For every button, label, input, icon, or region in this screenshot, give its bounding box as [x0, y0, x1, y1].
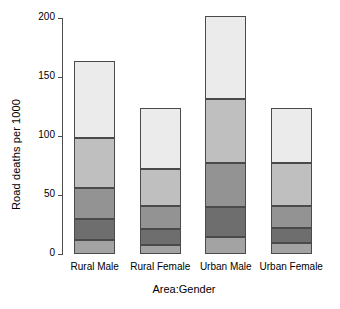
y-tick-label: 50 [44, 188, 55, 199]
stacked-bar[interactable] [140, 18, 181, 254]
bar-segment[interactable] [271, 163, 312, 205]
bar-segment[interactable] [74, 219, 115, 240]
bar-segment[interactable] [74, 240, 115, 254]
bar-group[interactable]: Urban Female [271, 18, 312, 254]
bar-segment[interactable] [140, 169, 181, 206]
y-axis-label: Road deaths per 1000 [6, 0, 26, 309]
chart-container: Road deaths per 1000 050100150200 Rural … [0, 0, 340, 309]
x-category-label: Urban Male [200, 261, 252, 272]
bar-segment[interactable] [271, 228, 312, 243]
bar-segment[interactable] [140, 229, 181, 244]
stacked-bar[interactable] [74, 18, 115, 254]
bar-segment[interactable] [205, 16, 246, 100]
bar-segment[interactable] [205, 99, 246, 163]
y-axis-label-wrapper: Road deaths per 1000 [6, 0, 24, 309]
bar-segment[interactable] [205, 163, 246, 207]
bar-segment[interactable] [140, 206, 181, 230]
bar-segment[interactable] [205, 237, 246, 254]
y-tick-label: 150 [38, 70, 55, 81]
x-category-label: Urban Female [260, 261, 323, 272]
stacked-bar[interactable] [205, 18, 246, 254]
bar-segment[interactable] [140, 245, 181, 254]
bar-segment[interactable] [271, 243, 312, 254]
y-tick-label: 100 [38, 129, 55, 140]
x-category-label: Rural Male [71, 261, 119, 272]
y-tick-label: 0 [49, 247, 55, 258]
bar-segment[interactable] [271, 206, 312, 228]
bar-series-area: Rural MaleRural FemaleUrban MaleUrban Fe… [62, 10, 324, 260]
bar-group[interactable]: Rural Male [74, 18, 115, 254]
y-tick-label: 200 [38, 11, 55, 22]
bar-segment[interactable] [74, 61, 115, 139]
bar-segment[interactable] [271, 108, 312, 163]
plot-area: 050100150200 Rural MaleRural FemaleUrban… [62, 10, 324, 260]
bar-segment[interactable] [140, 108, 181, 169]
bar-segment[interactable] [74, 188, 115, 219]
x-axis-label: Area:Gender [28, 283, 340, 295]
x-category-label: Rural Female [130, 261, 190, 272]
bar-group[interactable]: Urban Male [205, 18, 246, 254]
stacked-bar[interactable] [271, 18, 312, 254]
bar-segment[interactable] [74, 138, 115, 188]
bar-group[interactable]: Rural Female [140, 18, 181, 254]
bar-segment[interactable] [205, 207, 246, 238]
